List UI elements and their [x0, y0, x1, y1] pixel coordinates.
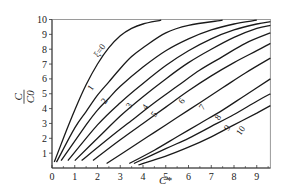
y-tick-label: 10 — [37, 14, 47, 25]
curve-label: 6 — [176, 96, 187, 106]
curves — [54, 20, 270, 165]
y-tick-label: 2 — [42, 133, 47, 144]
y-tick-label: 7 — [42, 59, 47, 70]
chart: 12345678910ξ=0 0123456789 12345678910 C*… — [0, 0, 281, 191]
curve-label: 1 — [85, 83, 96, 92]
y-tick-label: 8 — [42, 44, 47, 55]
y-tick-label: 9 — [42, 29, 47, 40]
y-tick-label: 6 — [42, 73, 47, 84]
curve-xi-1 — [57, 20, 223, 162]
curve-label: 2 — [99, 96, 110, 105]
curve-xi-0 — [54, 20, 161, 162]
x-tick-label: 3 — [118, 171, 123, 182]
x-tick-label: 2 — [95, 171, 100, 182]
curve-xi-8 — [129, 79, 270, 164]
x-tick-label: 9 — [254, 171, 259, 182]
x-tick-label: 1 — [72, 171, 77, 182]
curve-label: 10 — [234, 124, 248, 138]
x-tick-label: 8 — [232, 171, 237, 182]
svg-text:C: C — [12, 92, 24, 100]
y-axis-title: CC0 — [12, 90, 36, 104]
curve-label: ξ=0 — [92, 42, 108, 59]
x-axis-title: C* — [159, 174, 172, 186]
x-tick-label: 6 — [186, 171, 191, 182]
svg-text:C0: C0 — [24, 90, 36, 103]
y-tick-label: 5 — [42, 88, 47, 99]
y-axis-ticks: 12345678910 — [37, 14, 52, 159]
curve-label: 7 — [197, 102, 208, 112]
x-tick-label: 0 — [50, 171, 55, 182]
y-tick-label: 4 — [42, 103, 47, 114]
y-tick-label: 1 — [42, 148, 47, 159]
x-tick-label: 7 — [209, 171, 214, 182]
x-tick-label: 4 — [141, 171, 146, 182]
y-tick-label: 3 — [42, 118, 47, 129]
